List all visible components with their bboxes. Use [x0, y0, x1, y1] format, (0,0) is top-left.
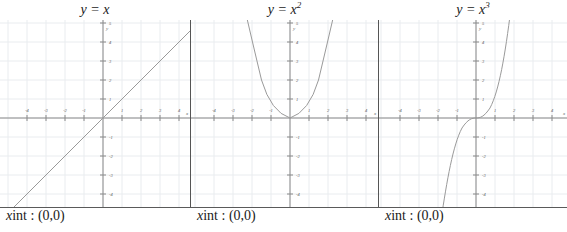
- svg-text:-3: -3: [44, 108, 48, 113]
- svg-text:-2: -2: [436, 108, 440, 113]
- svg-text:-1: -1: [482, 135, 486, 140]
- svg-text:-4: -4: [25, 108, 29, 113]
- caption-linear: xint : (0,0): [6, 208, 65, 224]
- y-axis-letter: y: [105, 26, 109, 31]
- x-axis-letter: x: [185, 111, 189, 116]
- plot-area-quadratic: -4 -3 -2 -1 1 2 3 4 5 4 3 2 1 -1 -2 -3 -: [191, 20, 378, 208]
- svg-text:-1: -1: [296, 135, 300, 140]
- svg-text:1: 1: [482, 97, 484, 102]
- axes: [379, 20, 567, 208]
- svg-text:-4: -4: [398, 108, 402, 113]
- caption-text: int : (0,0): [203, 208, 256, 223]
- svg-text:3: 3: [346, 108, 349, 113]
- svg-text:-4: -4: [212, 108, 216, 113]
- panel-title-exponent: 2: [297, 0, 302, 10]
- y-axis-letter: y: [292, 26, 296, 31]
- svg-text:1: 1: [296, 97, 298, 102]
- graph-panel-linear: y = x: [0, 0, 190, 232]
- svg-text:2: 2: [327, 108, 330, 113]
- curve-linear: [5, 26, 190, 208]
- panel-title-exponent: 3: [485, 0, 490, 10]
- panel-title-cubic: y = x3: [379, 0, 567, 20]
- x-axis-letter: x: [373, 111, 377, 116]
- three-graph-figure: y = x: [0, 0, 567, 232]
- panel-divider-2: [378, 20, 379, 208]
- svg-text:4: 4: [365, 108, 368, 113]
- svg-text:-2: -2: [63, 108, 67, 113]
- svg-text:2: 2: [140, 108, 143, 113]
- svg-text:-1: -1: [82, 108, 86, 113]
- svg-text:3: 3: [532, 108, 535, 113]
- graph-panel-cubic: y = x3: [379, 0, 567, 232]
- svg-text:4: 4: [551, 108, 554, 113]
- svg-text:1: 1: [308, 108, 310, 113]
- svg-text:1: 1: [109, 97, 111, 102]
- plot-area-linear: -4 -3 -2 -1 1 2 3 4 5 4 3 2 1 -1 -2 -3 -: [0, 20, 190, 208]
- grid-lines: [191, 20, 378, 208]
- svg-text:3: 3: [159, 108, 162, 113]
- svg-text:2: 2: [513, 108, 516, 113]
- panel-title-text: y = x: [268, 2, 297, 17]
- graph-panel-quadratic: y = x2: [191, 0, 378, 232]
- panel-title-text: y = x: [456, 2, 485, 17]
- panel-title-text: y = x: [81, 2, 110, 17]
- caption-quadratic: xint : (0,0): [197, 208, 256, 224]
- caption-text: int : (0,0): [12, 208, 65, 223]
- svg-text:1: 1: [121, 108, 123, 113]
- plot-svg-cubic: -4 -3 -2 -1 1 2 3 4 5 4 3 2 1 -1 -2 -3 -: [379, 20, 567, 208]
- svg-text:4: 4: [178, 108, 181, 113]
- plot-svg-quadratic: -4 -3 -2 -1 1 2 3 4 5 4 3 2 1 -1 -2 -3 -: [191, 20, 378, 208]
- panel-title-linear: y = x: [0, 0, 190, 20]
- x-axis-letter: x: [562, 111, 566, 116]
- figure-baseline: [0, 207, 567, 208]
- axes: [0, 20, 190, 208]
- svg-text:-1: -1: [269, 108, 273, 113]
- caption-cubic: xint : (0,0): [385, 208, 444, 224]
- axes: [191, 20, 378, 208]
- grid-lines: [0, 20, 190, 208]
- grid-lines: [379, 20, 567, 208]
- panel-title-quadratic: y = x2: [191, 0, 378, 20]
- svg-text:-3: -3: [417, 108, 421, 113]
- caption-text: int : (0,0): [391, 208, 444, 223]
- svg-text:-3: -3: [231, 108, 235, 113]
- svg-text:-1: -1: [455, 108, 459, 113]
- svg-text:-2: -2: [250, 108, 254, 113]
- panel-divider-1: [190, 20, 191, 208]
- plot-svg-linear: -4 -3 -2 -1 1 2 3 4 5 4 3 2 1 -1 -2 -3 -: [0, 20, 190, 208]
- svg-text:-1: -1: [109, 135, 113, 140]
- plot-area-cubic: -4 -3 -2 -1 1 2 3 4 5 4 3 2 1 -1 -2 -3 -: [379, 20, 567, 208]
- svg-text:1: 1: [494, 108, 496, 113]
- y-axis-letter: y: [478, 26, 482, 31]
